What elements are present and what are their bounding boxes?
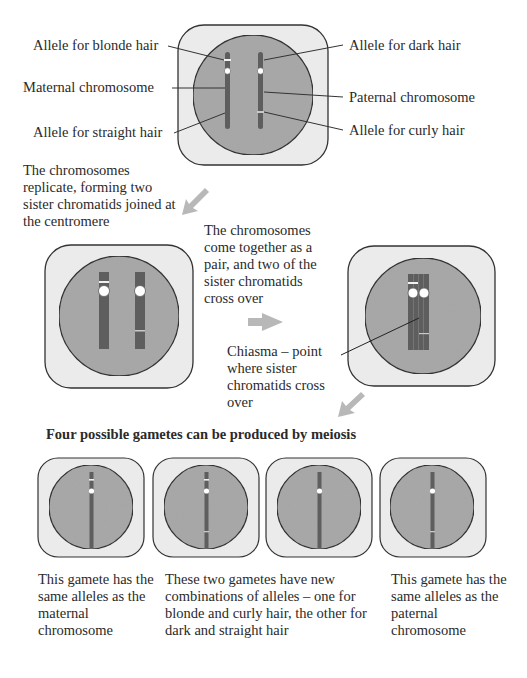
centromere — [430, 488, 435, 493]
caption-gametes-recombinant: These two gametes have new combinations … — [165, 571, 370, 639]
centromere — [408, 288, 418, 298]
centromere — [224, 68, 230, 74]
centromere — [317, 488, 322, 493]
caption-pairing-crossover: The chromosomes come together as a pair,… — [204, 222, 332, 307]
gamete-3 — [266, 458, 372, 557]
blonde-allele-marker — [224, 59, 231, 61]
cell-stage2 — [45, 245, 193, 388]
curly-allele-marker — [419, 333, 429, 334]
arrow-down-left-icon — [338, 392, 365, 417]
cell-stage3 — [341, 246, 495, 386]
maternal-sister-chromatids — [99, 272, 109, 349]
arrow-right-icon — [248, 313, 283, 331]
centromere — [257, 68, 263, 74]
blonde-allele-marker — [99, 281, 109, 283]
arrow-down-left-icon — [182, 188, 209, 215]
label-blonde-allele: Allele for blonde hair — [33, 37, 158, 54]
blonde-allele-marker — [89, 479, 94, 481]
centromere — [204, 488, 209, 493]
caption-gamete-maternal: This gamete has the same alleles as the … — [38, 571, 156, 639]
label-maternal-chromosome: Maternal chromosome — [23, 79, 154, 96]
centromere — [99, 286, 110, 297]
centromere — [419, 288, 429, 298]
label-straight-allele: Allele for straight hair — [33, 124, 162, 141]
label-chiasma: Chiasma – point where sister chromatids … — [227, 343, 342, 411]
label-curly-allele: Allele for curly hair — [349, 122, 465, 139]
curly-allele-marker — [430, 531, 435, 532]
centromere — [89, 488, 94, 493]
gametes-title: Four possible gametes can be produced by… — [46, 426, 356, 443]
centromere — [135, 286, 146, 297]
label-paternal-chromosome: Paternal chromosome — [349, 89, 475, 106]
blonde-allele-marker — [204, 479, 209, 481]
caption-gamete-paternal: This gamete has the same alleles as the … — [391, 571, 509, 639]
curly-allele-marker — [135, 330, 145, 332]
paternal-chromosome — [258, 52, 263, 129]
blonde-allele-marker — [408, 282, 418, 284]
label-dark-allele: Allele for dark hair — [349, 37, 461, 54]
cell-stage1 — [168, 25, 343, 165]
maternal-chromosome — [225, 52, 230, 129]
curly-allele-marker — [204, 531, 209, 532]
curly-allele-marker — [257, 111, 264, 113]
gamete-4 — [380, 458, 486, 557]
gamete-1 — [38, 458, 144, 557]
gamete-2 — [153, 458, 259, 557]
caption-replication: The chromosomes replicate, forming two s… — [23, 162, 178, 230]
paternal-sister-chromatids — [135, 272, 145, 349]
